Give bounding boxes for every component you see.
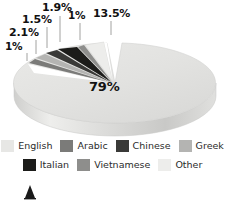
legend-label-italian: Italian: [40, 160, 69, 170]
chart-legend: English Arabic Chinese Greek Italian: [0, 137, 225, 179]
legend-label-chinese: Chinese: [133, 141, 171, 151]
legend-swatch-italian-icon: [23, 159, 36, 171]
legend-label-other: Other: [175, 160, 202, 170]
legend-swatch-greek-icon: [179, 140, 192, 152]
slice-label-greek: 2.1%: [9, 27, 39, 38]
legend-item-greek[interactable]: Greek: [179, 140, 224, 152]
legend-item-other[interactable]: Other: [158, 159, 202, 171]
pie-chart-figure: 79% 13.5% 1% 1.9% 1.5% 2.1% 1% English A…: [0, 0, 225, 205]
legend-swatch-arabic-icon: [60, 140, 73, 152]
legend-label-vietnamese: Vietnamese: [94, 160, 150, 170]
slice-label-chinese: 1.5%: [22, 14, 52, 25]
legend-item-arabic[interactable]: Arabic: [60, 140, 107, 152]
legend-item-vietnamese[interactable]: Vietnamese: [77, 159, 150, 171]
legend-label-greek: Greek: [196, 141, 224, 151]
slice-label-english: 79%: [89, 80, 120, 93]
legend-swatch-chinese-icon: [116, 140, 129, 152]
slice-label-arabic: 1%: [5, 41, 22, 52]
legend-label-arabic: Arabic: [77, 141, 107, 151]
pie-chart-graphic: 79% 13.5% 1% 1.9% 1.5% 2.1% 1%: [0, 0, 225, 138]
triangle-marker-svg: [24, 185, 36, 200]
legend-item-english[interactable]: English: [1, 140, 52, 152]
triangle-marker-icon: [24, 185, 36, 200]
legend-swatch-vietnamese-icon: [77, 159, 90, 171]
legend-label-english: English: [18, 141, 52, 151]
slice-label-italian: 1.9%: [42, 2, 72, 13]
legend-row-2: Italian Vietnamese Other: [0, 156, 225, 173]
legend-item-italian[interactable]: Italian: [23, 159, 69, 171]
legend-row-1: English Arabic Chinese Greek: [0, 137, 225, 154]
legend-swatch-english-icon: [1, 140, 14, 152]
legend-item-chinese[interactable]: Chinese: [116, 140, 171, 152]
slice-label-other: 13.5%: [93, 8, 130, 19]
legend-swatch-other-icon: [158, 159, 171, 171]
